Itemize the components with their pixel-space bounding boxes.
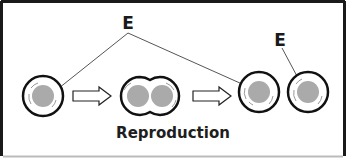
arrow-right-icon <box>73 87 111 105</box>
nucleus <box>248 81 270 103</box>
nucleus-right <box>151 85 173 107</box>
diagram-frame: E E <box>0 0 346 158</box>
reproduction-diagram: E E <box>0 0 346 158</box>
diagram-caption: Reproduction <box>116 124 230 142</box>
pointer-line-right <box>282 48 298 78</box>
parent-cell <box>23 76 63 116</box>
label-e-right: E <box>274 30 286 50</box>
daughter-cell-2 <box>288 72 328 112</box>
nucleus-left <box>127 85 149 107</box>
label-e-top: E <box>122 13 134 33</box>
daughter-cell-1 <box>239 72 279 112</box>
dividing-cell <box>121 77 179 115</box>
arrow-right-icon <box>193 87 231 105</box>
nucleus <box>32 85 54 107</box>
nucleus <box>297 81 319 103</box>
